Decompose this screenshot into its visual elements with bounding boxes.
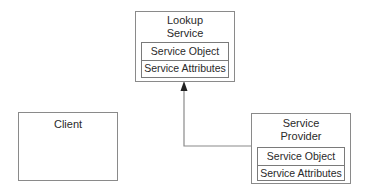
lookup-service-attributes: Service Attributes: [142, 60, 228, 77]
service-provider-title-line1: Service: [252, 117, 350, 130]
service-provider-object: Service Object: [258, 148, 344, 166]
lookup-service-title-line1: Lookup: [136, 14, 234, 27]
lookup-service-box: Lookup Service Service Object Service At…: [135, 11, 235, 82]
service-provider-record: Service Object Service Attributes: [257, 147, 345, 181]
arrowhead-icon: [181, 81, 188, 91]
lookup-service-record: Service Object Service Attributes: [141, 42, 229, 78]
service-provider-attributes: Service Attributes: [258, 165, 344, 182]
client-title: Client: [19, 118, 117, 131]
lookup-service-title-line2: Service: [136, 27, 234, 40]
service-provider-title-line2: Provider: [252, 130, 350, 143]
lookup-service-object: Service Object: [142, 43, 228, 61]
service-provider-box: Service Provider Service Object Service …: [251, 113, 351, 184]
client-box: Client: [18, 112, 118, 181]
